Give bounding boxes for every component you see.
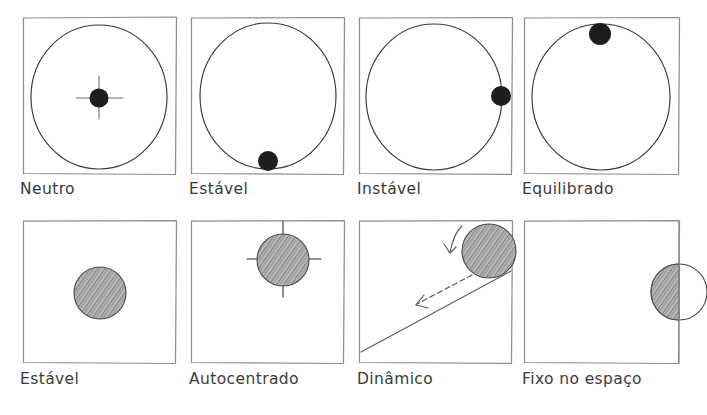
caption-estavel-top: Estável [189, 180, 248, 198]
outline-circle [200, 23, 336, 169]
caption-autocentrado: Autocentrado [189, 370, 299, 388]
ball-shaded [257, 234, 309, 286]
caption-equilibrado: Equilibrado [522, 180, 614, 198]
ball-solid [90, 89, 109, 108]
ball-shaded [462, 224, 516, 278]
outline-circle [366, 24, 502, 170]
panel-neutro [22, 16, 178, 176]
panel-dinamico [358, 219, 514, 365]
caption-neutro: Neutro [20, 180, 75, 198]
caption-instavel: Instável [357, 180, 421, 198]
panel-autocentrado [190, 219, 346, 365]
rotation-arrow-icon [444, 226, 462, 253]
motion-arrow-icon [416, 275, 472, 308]
panel-fixo-no-espaco [523, 219, 699, 365]
outline-circle [532, 24, 670, 170]
ball-solid [258, 151, 278, 171]
ball-shaded-inside [651, 264, 679, 320]
panel-equilibrado [523, 16, 681, 176]
diagram-sheet: Neutro Estável Instável Equilibrado [0, 0, 707, 415]
panel-estavel-bottom [22, 219, 178, 365]
caption-estavel-bottom: Estável [20, 370, 79, 388]
ramp-line [361, 271, 511, 352]
ball-solid [491, 86, 511, 106]
panel-frame [360, 18, 513, 175]
ball-shaded [74, 267, 126, 319]
panel-estavel-top [190, 16, 346, 176]
ball-solid [589, 23, 611, 45]
caption-dinamico: Dinâmico [357, 370, 433, 388]
panel-instavel [358, 16, 514, 176]
caption-fixo-no-espaco: Fixo no espaço [522, 370, 642, 388]
panel-frame [192, 18, 345, 175]
